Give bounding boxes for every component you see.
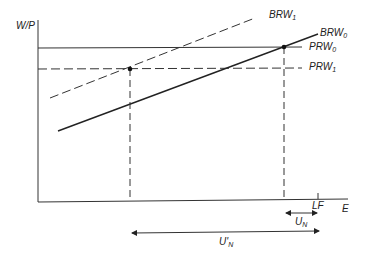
prw0-label-main: PRW [309, 41, 332, 52]
brw1-curve [50, 18, 255, 98]
un-label-sub: N [302, 221, 307, 228]
un-prime-label: U'N [219, 237, 233, 248]
brw1-label-main: BRW [269, 9, 292, 20]
prw1-label-main: PRW [309, 61, 332, 72]
prw1-label-sub: 1 [332, 66, 336, 73]
prw0-label-sub: 0 [332, 46, 336, 53]
lf-label: LF [312, 201, 324, 211]
brw0-label-main: BRW [320, 27, 343, 38]
x-axis-label: E [342, 204, 349, 214]
prw0-line [38, 47, 302, 48]
equilibrium-point-0 [282, 45, 287, 50]
labour-market-diagram [0, 0, 365, 254]
equilibrium-point-1 [128, 67, 133, 72]
prw1-label: PRW1 [309, 62, 336, 73]
un-prime-arrow [132, 231, 319, 233]
brw0-label-sub: 0 [343, 32, 347, 39]
un-prime-label-sub: N [228, 241, 233, 248]
un-label: UN [295, 217, 307, 228]
brw0-label: BRW0 [320, 28, 347, 39]
x-axis [38, 199, 348, 202]
un-prime-label-main: U' [219, 236, 228, 247]
prw1-line [38, 68, 302, 69]
brw0-curve [58, 34, 318, 131]
prw0-label: PRW0 [309, 42, 336, 53]
brw1-label: BRW1 [269, 10, 296, 21]
brw1-label-sub: 1 [292, 14, 296, 21]
y-axis-label: W/P [16, 21, 35, 31]
